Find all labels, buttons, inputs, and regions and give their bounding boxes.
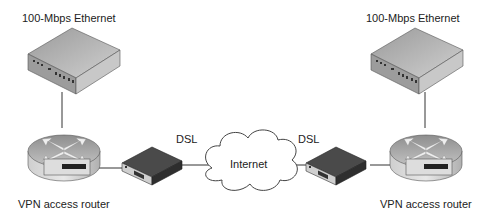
right-router-label: VPN access router [380,198,472,210]
left-dsl-modem [122,147,182,185]
right-dsl-label: DSL [298,133,319,145]
left-switch-label: 100-Mbps Ethernet [22,12,116,24]
right-vpn-router [390,135,462,181]
left-vpn-router [28,135,100,181]
diagram-canvas [0,0,488,221]
internet-label: Internet [230,158,267,170]
right-switch-label: 100-Mbps Ethernet [366,12,460,24]
right-ethernet-switch [371,28,463,94]
left-ethernet-switch [28,28,120,94]
left-dsl-label: DSL [176,133,197,145]
right-dsl-modem [306,147,366,185]
left-router-label: VPN access router [18,198,110,210]
vpn-network-diagram: 100-Mbps Ethernet 100-Mbps Ethernet VPN … [0,0,488,221]
